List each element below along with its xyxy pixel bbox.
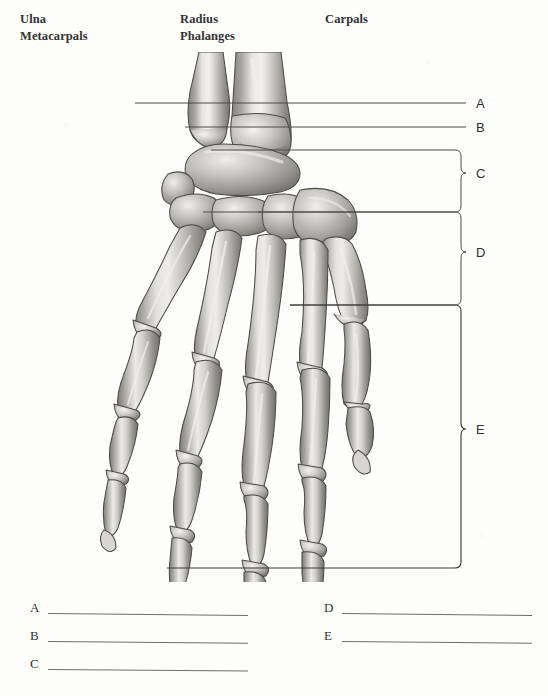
- hand-skeleton-illustration: A B C D E: [0, 52, 548, 582]
- answer-blank-d[interactable]: [342, 613, 532, 616]
- bone-metacarpal-1: [322, 237, 368, 327]
- bone-metacarpal-4: [192, 230, 242, 371]
- answer-blank-a[interactable]: [48, 613, 248, 616]
- bone-finger-2-phalanges: [298, 368, 330, 582]
- answer-letter-a: A: [30, 600, 39, 616]
- bone-metacarpal-5: [133, 225, 206, 341]
- answer-letter-d: D: [324, 600, 333, 616]
- callout-letter-a: A: [476, 96, 485, 111]
- bone-ulna: [188, 52, 230, 147]
- callout-letter-d: D: [476, 245, 485, 260]
- word-bank-term-radius: Radius: [180, 12, 218, 27]
- bone-finger-3-phalanges: [240, 382, 276, 582]
- word-bank-term-metacarpals: Metacarpals: [20, 29, 88, 44]
- word-bank-term-phalanges: Phalanges: [180, 29, 235, 44]
- word-bank-term-ulna: Ulna: [20, 12, 46, 27]
- callout-letter-b: B: [476, 120, 485, 135]
- bone-metacarpal-3: [243, 234, 286, 397]
- bone-finger-5-phalanges: [100, 330, 160, 552]
- bone-metacarpal-2: [297, 238, 328, 383]
- worksheet-page: Ulna Metacarpals Radius Phalanges Carpal…: [0, 0, 548, 696]
- answer-letter-b: B: [30, 628, 39, 644]
- word-bank-term-carpals: Carpals: [325, 12, 368, 27]
- word-bank: Ulna Metacarpals Radius Phalanges Carpal…: [0, 0, 548, 56]
- hand-skeleton-figure: A B C D E: [0, 52, 548, 582]
- bone-finger-4-phalanges: [166, 360, 222, 582]
- answer-blank-b[interactable]: [48, 641, 248, 644]
- answer-key-area: A B C D E: [0, 588, 548, 696]
- bone-thumb-phalanges: [342, 322, 374, 474]
- answer-letter-e: E: [324, 628, 332, 644]
- answer-blank-e[interactable]: [342, 641, 532, 644]
- callout-letter-e: E: [476, 422, 485, 437]
- callout-letter-c: C: [476, 166, 485, 181]
- answer-letter-c: C: [30, 656, 39, 672]
- answer-blank-c[interactable]: [48, 669, 248, 672]
